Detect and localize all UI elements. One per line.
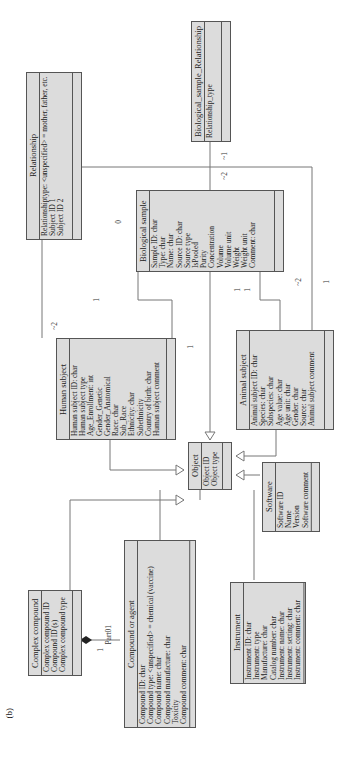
class-title: Relationship <box>27 73 40 239</box>
class-operations <box>73 591 81 675</box>
multiplicity-label: 0 <box>114 220 123 224</box>
multiplicity-label: ~2 <box>50 322 59 330</box>
class-title: Object <box>189 443 202 489</box>
class-animal-subject[interactable]: Animal subject Animal subject ID: charSp… <box>236 330 334 430</box>
class-operations <box>73 73 81 239</box>
class-attributes: Object IDObject type <box>202 443 223 489</box>
class-attributes: Relationshiptype: <unspecified> = mother… <box>40 73 73 239</box>
class-attributes: Human subject ID: charHuman subject type… <box>70 339 167 439</box>
class-title: Complex compound <box>29 591 42 675</box>
class-title: Biological_sample_Relationship <box>192 22 205 141</box>
multiplicity-label: 1 <box>96 648 105 652</box>
multiplicity-label: 1 <box>243 288 252 292</box>
class-attributes: Relationship_type <box>205 22 222 141</box>
class-attributes: Complex compound IDCompound ID (s)Comple… <box>42 591 73 675</box>
class-biological-sample[interactable]: Biological sample Sample ID: charType: c… <box>136 190 284 272</box>
class-operations <box>222 22 230 141</box>
class-title: Human subject <box>57 339 70 439</box>
class-title: Biological sample <box>137 191 150 271</box>
class-relationship[interactable]: Relationship Relationshiptype: <unspecif… <box>26 72 82 240</box>
class-title: Compound or agent <box>125 541 138 727</box>
multiplicity-label: 1 <box>186 345 195 349</box>
class-software[interactable]: Software Software IDNameVersionSoftware … <box>262 462 320 532</box>
class-biological-sample-relationship[interactable]: Biological_sample_Relationship Relations… <box>191 21 231 142</box>
multiplicity-label: 1 <box>233 288 242 292</box>
class-operations <box>223 443 231 489</box>
class-operations <box>167 339 175 439</box>
class-attributes: Compound ID: charCompound type: <unspeci… <box>138 541 190 727</box>
class-instrument[interactable]: Instrument Instrument ID: charInstrument… <box>230 582 306 684</box>
class-operations <box>275 191 283 271</box>
class-title: Software <box>263 463 276 531</box>
class-attributes: Instrument ID: charInstrument: typeManuf… <box>244 583 304 683</box>
multiplicity-label: 1 <box>322 280 331 284</box>
multiplicity-label: ~2 <box>294 278 303 286</box>
class-title: Animal subject <box>237 331 250 429</box>
multiplicity-label: 1 <box>92 298 101 302</box>
class-operations <box>312 463 319 531</box>
class-attributes: Software IDNameVersionSoftware comment <box>276 463 312 531</box>
class-object[interactable]: Object Object IDObject type <box>188 442 232 490</box>
class-operations <box>325 331 333 429</box>
class-attributes: Animal subject ID: charSpecies: charSubs… <box>250 331 325 429</box>
class-attributes: Sample ID: charType: charName: charSourc… <box>150 191 275 271</box>
class-compound-or-agent[interactable]: Compound or agent Compound ID: charCompo… <box>124 540 196 728</box>
association-label: Part01 <box>104 625 113 645</box>
multiplicity-label: ~2 <box>220 172 229 180</box>
class-title: Instrument <box>231 583 244 683</box>
figure-label: (b) <box>4 708 14 719</box>
class-human-subject[interactable]: Human subject Human subject ID: charHuma… <box>56 338 176 440</box>
class-complex-compound[interactable]: Complex compound Complex compound IDComp… <box>28 590 82 676</box>
multiplicity-label: ~1 <box>220 152 229 160</box>
class-operations <box>190 541 195 727</box>
